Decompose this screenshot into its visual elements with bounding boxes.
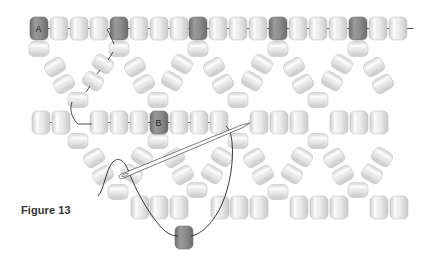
bead: [291, 73, 316, 96]
bead: [50, 17, 68, 40]
bead: [52, 73, 77, 96]
bead: [251, 164, 276, 187]
bead: [330, 111, 348, 134]
bead: [230, 196, 248, 219]
bead-label: B: [156, 118, 162, 128]
bead: [371, 73, 396, 96]
bead: [229, 17, 247, 40]
bead: [228, 93, 248, 108]
bead: [210, 146, 235, 169]
bead: [389, 17, 407, 40]
bead: [148, 93, 168, 108]
bead: [108, 185, 128, 200]
bead: [280, 163, 305, 186]
bead: [370, 146, 395, 169]
bead: [290, 146, 315, 169]
bead: [360, 163, 385, 186]
bead: [250, 196, 268, 219]
bead: [308, 134, 328, 149]
bead: [70, 17, 88, 40]
bead: [160, 70, 185, 93]
bead: [170, 111, 188, 134]
bead: [370, 111, 388, 134]
bead: [350, 111, 368, 134]
bead: [390, 196, 408, 219]
dark-bead: [349, 17, 367, 40]
dark-bead: A: [30, 17, 48, 40]
bead-label: A: [36, 24, 42, 34]
bead: [187, 183, 207, 198]
bead: [90, 111, 108, 134]
bead: [210, 111, 228, 134]
beads-layer: AB: [29, 17, 408, 249]
dark-bead: B: [150, 111, 168, 134]
bead: [29, 42, 49, 57]
bead: [270, 111, 288, 134]
bead: [309, 17, 327, 40]
bead: [170, 17, 188, 40]
bead: [150, 196, 168, 219]
bead: [330, 196, 348, 219]
bead: [150, 17, 168, 40]
bead: [290, 196, 308, 219]
dark-bead: [269, 17, 287, 40]
bead-pattern-illustration: AB: [0, 0, 427, 262]
bead: [320, 70, 345, 93]
bead: [242, 147, 267, 170]
bead: [130, 111, 148, 134]
bead: [190, 111, 208, 134]
bead: [348, 183, 368, 198]
bead: [362, 56, 387, 79]
bead: [52, 111, 70, 134]
bead: [43, 56, 68, 79]
bead: [268, 42, 288, 57]
bead: [249, 17, 267, 40]
bead: [209, 17, 227, 40]
figure-caption: Figure 13: [21, 204, 71, 216]
bead: [289, 17, 307, 40]
bead: [322, 147, 347, 170]
bead: [211, 73, 236, 96]
dark-bead: [110, 17, 128, 40]
bead: [348, 42, 368, 57]
bead: [370, 196, 388, 219]
bead: [240, 70, 265, 93]
bead: [110, 111, 128, 134]
dark-bead: [175, 226, 193, 249]
bead: [250, 111, 268, 134]
bead: [68, 134, 88, 149]
bead: [268, 185, 288, 200]
bead: [91, 164, 116, 187]
bead: [123, 56, 148, 79]
bead: [188, 42, 208, 57]
bead: [310, 196, 328, 219]
bead: [132, 73, 157, 96]
bead: [148, 134, 168, 149]
bead: [200, 163, 225, 186]
dark-bead: [189, 17, 207, 40]
bead: [202, 56, 227, 79]
bead: [282, 56, 307, 79]
bead: [90, 17, 108, 40]
bead: [329, 17, 347, 40]
bead: [130, 17, 148, 40]
bead: [32, 111, 50, 134]
bead: [308, 93, 328, 108]
bead: [369, 17, 387, 40]
bead: [290, 111, 308, 134]
bead: [82, 147, 107, 170]
beading-diagram: AB Figure 13: [0, 0, 427, 262]
bead: [170, 196, 188, 219]
bead: [81, 70, 106, 93]
